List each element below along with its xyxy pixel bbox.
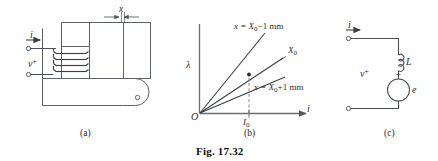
coil-right-hooks (86, 52, 89, 72)
series-line-x0-minus-1mm (200, 33, 265, 113)
panel-a-drawing (26, 12, 151, 106)
voltage-source-symbol (388, 79, 410, 101)
wire-top-c (351, 39, 399, 56)
panel-c-source-polarity: + (396, 70, 401, 79)
chart-series-label-x0: X0 (288, 46, 297, 57)
plunger-rounded-nose (124, 79, 150, 106)
series-label-tail-1: −1 mm (258, 21, 284, 31)
panel-c-inductor-label: L (406, 57, 412, 67)
wire-bottom-c (351, 101, 399, 109)
core-tongue (43, 47, 90, 79)
panel-c-source-label: e (412, 85, 416, 95)
terminal-bottom-c (346, 106, 350, 110)
series-label-sub-2: 0 (294, 49, 298, 57)
chart-y-axis-label: λ (186, 60, 190, 70)
panel-a-voltage-sign: + (32, 57, 36, 66)
panel-a-current-label: i (30, 30, 33, 40)
series-label-leader-x0 (280, 57, 286, 61)
coil-winding (54, 48, 89, 72)
chart-operating-point (247, 73, 251, 77)
figure-caption: Fig. 17.32 (196, 146, 244, 157)
panel-a-label: (a) (80, 129, 91, 139)
terminal-top-c (346, 36, 350, 40)
chart-series-label-x0-plus-1mm: x = X0+1 mm (254, 83, 303, 94)
yoke-outer-frame (43, 29, 124, 106)
core-inner-upper (62, 23, 90, 47)
panel-b-chart (200, 24, 307, 118)
plunger-body (124, 23, 151, 79)
series-label-head-1: x = X (234, 21, 254, 31)
chart-x-tick-label-i0: I0 (243, 118, 250, 129)
chart-origin-label: O (191, 112, 198, 122)
panel-c-voltage-label: v+ (360, 68, 369, 79)
panel-a-gap-label: x (119, 5, 123, 15)
panel-b-label: (b) (244, 129, 255, 139)
panel-a-voltage-label: v+ (28, 58, 37, 69)
panel-c-current-label: i (348, 20, 351, 30)
series-label-head-3: x = X (254, 82, 274, 92)
figure-17-32: i v+ x (a) λ i O I0 x = X0−1 mm X0 x = X… (0, 0, 438, 161)
figure-drawing-canvas (0, 0, 438, 161)
panel-c-label: (c) (384, 129, 395, 139)
pivot-hole-icon (135, 95, 139, 99)
chart-series-label-x0-minus-1mm: x = X0−1 mm (234, 22, 283, 33)
series-label-tail-3: +1 mm (278, 82, 304, 92)
chart-series-lines (200, 33, 285, 113)
chart-x-axis-label: i (307, 104, 310, 114)
terminal-bottom-a (26, 72, 30, 76)
panel-c-voltage-sign: + (364, 67, 368, 76)
terminal-top-a (26, 46, 30, 50)
